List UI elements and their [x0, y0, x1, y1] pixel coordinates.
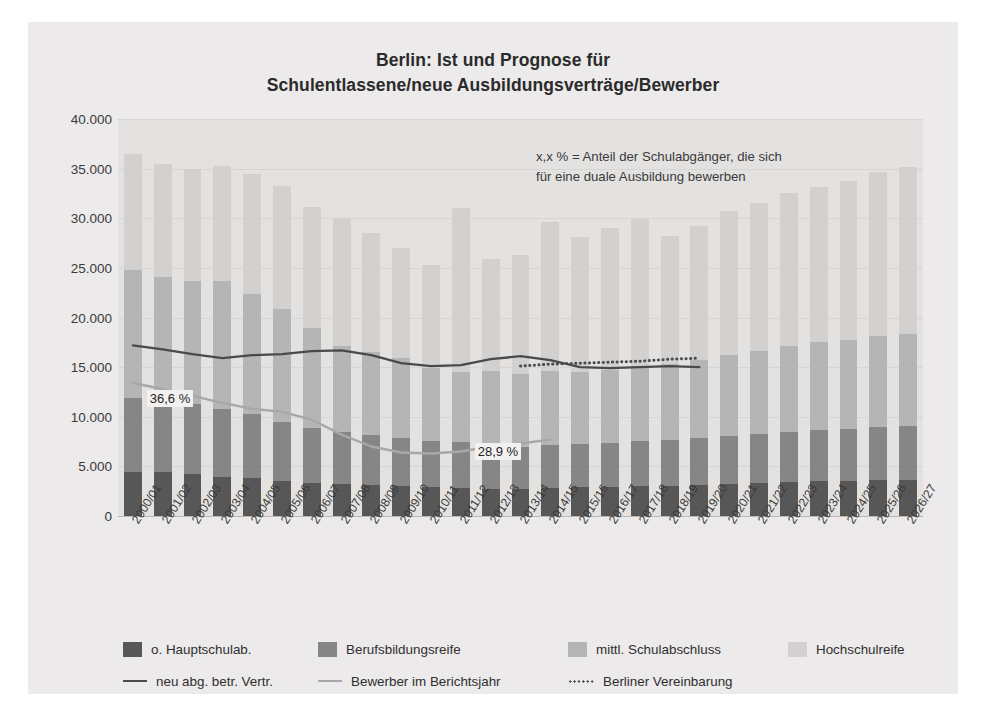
- legend-item-3[interactable]: Hochschulreife: [788, 634, 905, 664]
- line-series: [133, 345, 700, 368]
- y-axis-tick-label: 0: [40, 509, 112, 524]
- y-axis-tick-label: 5.000: [40, 459, 112, 474]
- chart-note: x,x % = Anteil der Schulabgänger, die si…: [536, 147, 936, 186]
- chart-sheet: Berlin: Ist und Prognose für Schulentlas…: [28, 22, 958, 694]
- legend-line-item-2[interactable]: Berliner Vereinbarung: [568, 666, 733, 696]
- y-axis-tick-label: 20.000: [40, 310, 112, 325]
- legend-label: neu abg. betr. Vertr.: [156, 674, 273, 689]
- legend-line-item-1[interactable]: Bewerber im Berichtsjahr: [318, 666, 501, 696]
- legend-swatch-icon: [788, 642, 807, 657]
- legend-dotted-line-icon: [568, 680, 594, 683]
- legend-row-bars: o. Hauptschulab.Berufsbildungsreifemittl…: [28, 634, 958, 664]
- chart-note-line-1: x,x % = Anteil der Schulabgänger, die si…: [536, 147, 936, 167]
- data-label: 36,6 %: [147, 390, 193, 407]
- y-axis-tick-label: 25.000: [40, 260, 112, 275]
- legend-line-item-0[interactable]: neu abg. betr. Vertr.: [123, 666, 273, 696]
- legend-label: Berufsbildungsreife: [346, 642, 461, 657]
- page-title: Berlin: Ist und Prognose für Schulentlas…: [28, 48, 958, 98]
- legend-item-1[interactable]: Berufsbildungsreife: [318, 634, 461, 664]
- y-axis-labels: 05.00010.00015.00020.00025.00030.00035.0…: [34, 119, 112, 516]
- y-axis-tick-label: 40.000: [40, 112, 112, 127]
- legend-item-2[interactable]: mittl. Schulabschluss: [568, 634, 721, 664]
- data-label: 28,9 %: [475, 443, 521, 460]
- legend-row-lines: neu abg. betr. Vertr.Bewerber im Bericht…: [28, 666, 958, 696]
- y-axis-tick-label: 15.000: [40, 360, 112, 375]
- x-axis-labels: 2000/012001/022002/032003/042004/052005/…: [118, 519, 923, 599]
- title-line-2: Schulentlassene/neue Ausbildungsverträge…: [28, 73, 958, 98]
- legend-label: mittl. Schulabschluss: [596, 642, 721, 657]
- legend-label: o. Hauptschulab.: [151, 642, 252, 657]
- legend-swatch-icon: [568, 642, 587, 657]
- y-axis-tick-label: 10.000: [40, 409, 112, 424]
- page-background: Berlin: Ist und Prognose für Schulentlas…: [0, 0, 985, 721]
- y-axis-tick-label: 35.000: [40, 161, 112, 176]
- legend-swatch-icon: [318, 642, 337, 657]
- legend-swatch-icon: [123, 642, 142, 657]
- legend-label: Bewerber im Berichtsjahr: [351, 674, 501, 689]
- legend-label: Hochschulreife: [816, 642, 905, 657]
- legend-label: Berliner Vereinbarung: [603, 674, 733, 689]
- legend-item-0[interactable]: o. Hauptschulab.: [123, 634, 252, 664]
- chart-legend: o. Hauptschulab.Berufsbildungsreifemittl…: [28, 622, 958, 694]
- chart-note-line-2: für eine duale Ausbildung bewerben: [536, 167, 936, 187]
- title-line-1: Berlin: Ist und Prognose für: [28, 48, 958, 73]
- y-axis-tick-label: 30.000: [40, 211, 112, 226]
